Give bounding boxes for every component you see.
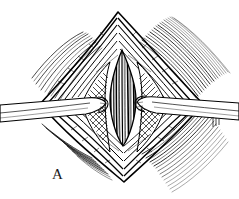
panel-label: A — [52, 166, 63, 183]
illustration-canvas — [0, 0, 239, 199]
surgical-illustration-figure: A — [0, 0, 239, 199]
